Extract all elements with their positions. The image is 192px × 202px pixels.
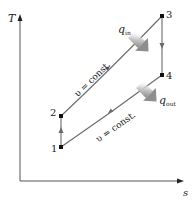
state-point-2 (59, 114, 63, 118)
state-point-1 (59, 145, 63, 149)
heat-out-label: qout (159, 95, 176, 107)
state-label-2: 2 (50, 108, 56, 118)
state-point-3 (160, 14, 164, 18)
state-point-4 (160, 73, 164, 77)
process-3-4-arrow-icon (160, 43, 165, 49)
heat-in-label: qin (118, 24, 131, 36)
x-axis (20, 179, 184, 184)
process-1-2-arrow-icon (59, 127, 64, 133)
state-label-1: 1 (51, 144, 57, 154)
state-label-4: 4 (166, 71, 172, 81)
y-axis-arrow-icon (18, 14, 23, 21)
ts-diagram: T s 1 2 3 4 qin qout υ = const. υ = cons… (0, 0, 192, 202)
x-axis-label: s (183, 188, 188, 198)
y-axis (18, 14, 23, 181)
y-axis-label: T (8, 13, 15, 24)
state-label-3: 3 (166, 10, 172, 20)
x-axis-arrow-icon (177, 179, 184, 184)
